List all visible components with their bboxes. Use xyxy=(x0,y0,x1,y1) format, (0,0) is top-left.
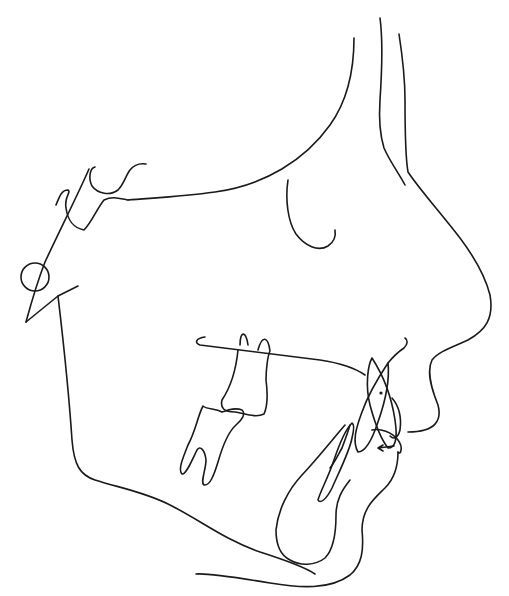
porion-ring-icon xyxy=(21,263,49,291)
nasal-spine xyxy=(388,338,407,363)
soft-tissue-forehead xyxy=(380,18,405,185)
frontal-bone xyxy=(128,38,354,200)
sella-line xyxy=(90,164,146,194)
soft-tissue-nose xyxy=(399,34,491,432)
incisor-point-icon xyxy=(379,391,382,394)
cranial-base xyxy=(56,190,128,230)
lower-molar xyxy=(180,406,243,485)
tracing-svg xyxy=(0,0,509,596)
orbit xyxy=(287,180,335,248)
cephalometric-tracing xyxy=(0,0,509,596)
upper-incisor-2 xyxy=(355,363,388,452)
cranial-base-posterior xyxy=(26,169,89,322)
palatal-plane xyxy=(197,337,365,375)
upper-molar xyxy=(222,334,270,416)
soft-tissue-chin xyxy=(196,452,398,587)
